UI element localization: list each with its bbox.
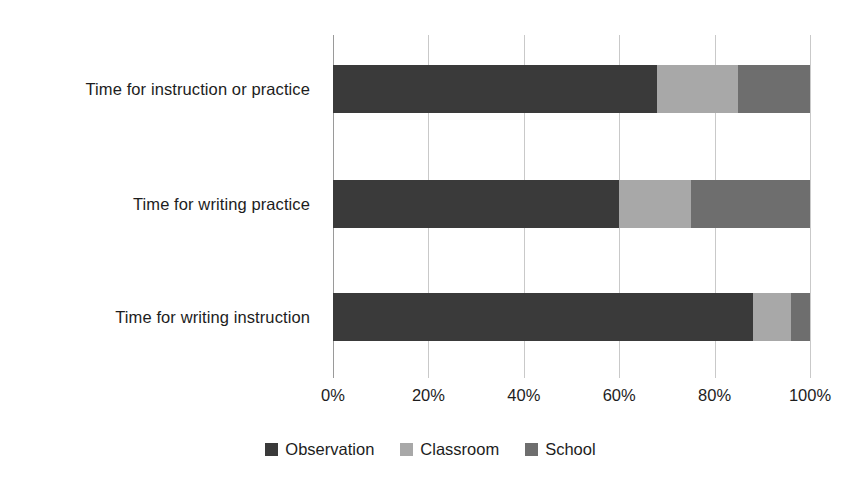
bar-row — [333, 65, 810, 113]
legend-label: Observation — [285, 440, 374, 459]
category-label-writing-practice: Time for writing practice — [0, 195, 310, 214]
legend-swatch-icon — [525, 443, 538, 456]
bar-segment-classroom — [753, 293, 791, 341]
legend-swatch-icon — [265, 443, 278, 456]
plot-area — [333, 35, 810, 378]
x-tick-label: 100% — [789, 386, 831, 405]
category-label-writing-instruction: Time for writing instruction — [0, 308, 310, 327]
bar-segment-school — [791, 293, 810, 341]
bar-segment-observation — [333, 65, 657, 113]
legend-item-observation[interactable]: Observation — [265, 440, 374, 459]
bar-segment-school — [738, 65, 810, 113]
bar-segment-school — [691, 180, 810, 228]
bar-segment-observation — [333, 293, 753, 341]
bar-row — [333, 180, 810, 228]
x-axis-tick-labels: 0%20%40%60%80%100% — [333, 386, 810, 412]
legend-label: School — [545, 440, 595, 459]
legend-item-classroom[interactable]: Classroom — [400, 440, 499, 459]
stacked-bar-chart: Time for instruction or practice Time fo… — [0, 0, 861, 489]
x-tick-label: 60% — [603, 386, 636, 405]
chart-legend: ObservationClassroomSchool — [0, 440, 861, 459]
bar-row — [333, 293, 810, 341]
bar-segment-observation — [333, 180, 619, 228]
bar-segment-classroom — [619, 180, 691, 228]
bar-segment-classroom — [657, 65, 738, 113]
legend-label: Classroom — [420, 440, 499, 459]
x-tick-label: 20% — [412, 386, 445, 405]
x-tick-label: 0% — [321, 386, 345, 405]
x-tick-label: 40% — [507, 386, 540, 405]
legend-swatch-icon — [400, 443, 413, 456]
gridline-100 — [810, 35, 811, 378]
category-label-instruction-or-practice: Time for instruction or practice — [0, 80, 310, 99]
x-tick-label: 80% — [698, 386, 731, 405]
legend-item-school[interactable]: School — [525, 440, 595, 459]
